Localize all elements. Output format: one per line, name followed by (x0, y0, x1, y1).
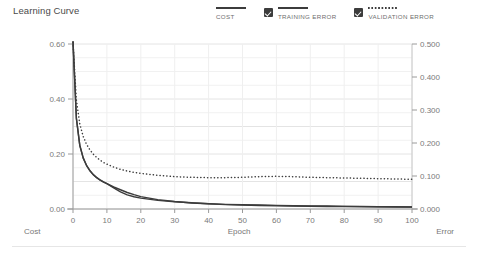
legend-item-validation-error[interactable]: VALIDATION ERROR (354, 4, 434, 21)
axis-right-tick-label: 0.200 (420, 139, 441, 148)
legend-line-dotted-icon (368, 4, 398, 12)
footer-epoch-label: Epoch (0, 227, 478, 236)
checkbox-checked-icon[interactable] (354, 8, 363, 17)
axis-x-tick-label: 40 (204, 216, 213, 224)
axis-x-tick-label: 0 (71, 216, 76, 224)
legend-item-label: COST (216, 13, 246, 21)
axis-x-tick-label: 30 (170, 216, 179, 224)
chart-legend: COST TRAINING ERROR VALIDATION ERROR (216, 4, 434, 21)
axis-right-tick-label: 0.100 (420, 172, 441, 181)
axis-right-tick-label: 0.400 (420, 73, 441, 82)
axis-x-tick-label: 100 (405, 216, 419, 224)
chart-footer: Cost Epoch Error (0, 225, 478, 247)
axis-left-tick-label: 0.20 (49, 150, 65, 159)
legend-item-cost[interactable]: COST (216, 4, 246, 21)
chart-plot-area: 0.000.200.400.600.0000.1000.2000.3000.40… (0, 26, 478, 224)
axis-left-tick-label: 0.00 (49, 205, 65, 214)
axis-x-tick-label: 70 (306, 216, 315, 224)
legend-item-label: VALIDATION ERROR (368, 13, 434, 21)
axis-x-tick-label: 10 (102, 216, 111, 224)
learning-curve-svg: 0.000.200.400.600.0000.1000.2000.3000.40… (0, 26, 478, 224)
axis-x-tick-label: 20 (136, 216, 145, 224)
axis-right-tick-label: 0.500 (420, 40, 441, 49)
legend-line-solid-icon (216, 4, 246, 12)
axis-x-tick-label: 50 (238, 216, 247, 224)
legend-line-solid-icon (278, 4, 308, 12)
axis-x-tick-label: 90 (374, 216, 383, 224)
axis-right-tick-label: 0.300 (420, 106, 441, 115)
legend-item-label: TRAINING ERROR (278, 13, 337, 21)
legend-item-training-error[interactable]: TRAINING ERROR (264, 4, 337, 21)
learning-curve-widget: Learning Curve COST TRAINING ERROR (0, 0, 478, 253)
axis-right-tick-label: 0.000 (420, 205, 441, 214)
footer-error-label: Error (436, 227, 454, 236)
page-title: Learning Curve (13, 5, 79, 16)
checkbox-checked-icon[interactable] (264, 8, 273, 17)
axis-x-tick-label: 80 (340, 216, 349, 224)
axis-left-tick-label: 0.40 (49, 95, 65, 104)
axis-x-tick-label: 60 (272, 216, 281, 224)
footer-divider (12, 246, 466, 247)
axis-left-tick-label: 0.60 (49, 40, 65, 49)
